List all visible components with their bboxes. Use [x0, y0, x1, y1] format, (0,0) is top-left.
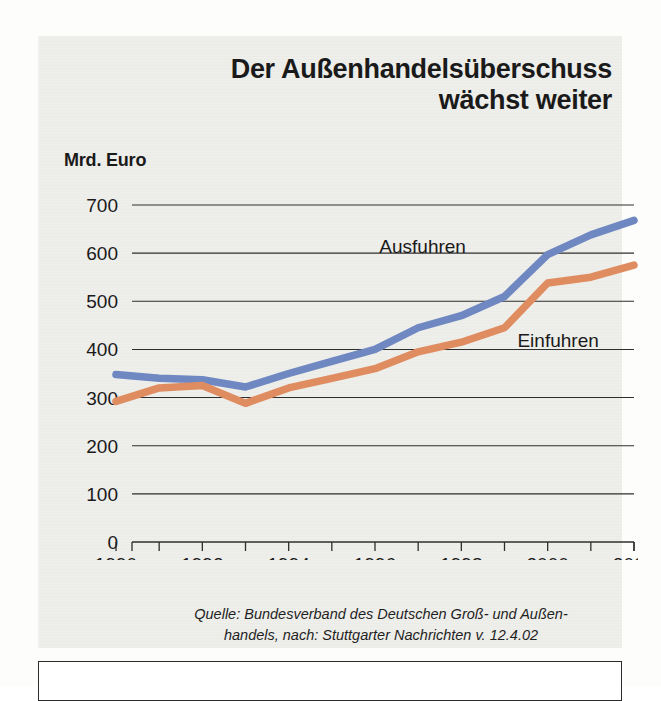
- series-label-ausfuhren: Ausfuhren: [379, 236, 466, 257]
- line-chart: 0100200300400500600700 19901992199419961…: [38, 185, 638, 560]
- x-axis-tick-label-1994: 1994: [268, 554, 311, 560]
- chart-svg: 0100200300400500600700 19901992199419961…: [38, 185, 638, 560]
- series-label-einfuhren: Einfuhren: [517, 330, 598, 351]
- series-line-ausfuhren: [116, 220, 634, 387]
- x-axis-tick-label-1992: 1992: [181, 554, 223, 560]
- source-attribution: Quelle: Bundesverband des Deutschen Groß…: [150, 604, 612, 646]
- x-axis-group: [116, 542, 634, 551]
- x-axis-tick-label-1990: 1990: [95, 554, 137, 560]
- y-axis-tick-300: 300: [86, 388, 118, 409]
- bottom-empty-box: [38, 661, 622, 701]
- x-axis-tick-label-1996: 1996: [354, 554, 396, 560]
- y-axis-tick-200: 200: [86, 436, 118, 457]
- series-lines-group: [116, 220, 634, 403]
- page-title: Der Außenhandelsüberschuss wächst weiter: [180, 54, 612, 117]
- source-line-1: Quelle: Bundesverband des Deutschen Groß…: [150, 604, 612, 625]
- x-axis-tick-label-2000: 2000: [527, 554, 569, 560]
- axis-unit-label: Mrd. Euro: [64, 150, 146, 171]
- page-title-line-2: wächst weiter: [180, 85, 612, 116]
- y-axis-tick-100: 100: [86, 484, 118, 505]
- y-axis-tick-700: 700: [86, 195, 118, 216]
- y-axis-tick-500: 500: [86, 291, 118, 312]
- y-axis-tick-400: 400: [86, 339, 118, 360]
- x-axis-labels-group: 1990199219941996199820002002: [95, 554, 638, 560]
- page-title-line-1: Der Außenhandelsüberschuss: [180, 54, 612, 85]
- x-axis-tick-label-2002: 2002: [613, 554, 638, 560]
- y-axis-tick-600: 600: [86, 243, 118, 264]
- source-line-2: handels, nach: Stuttgarter Nachrichten v…: [150, 625, 612, 646]
- x-axis-tick-label-1998: 1998: [440, 554, 482, 560]
